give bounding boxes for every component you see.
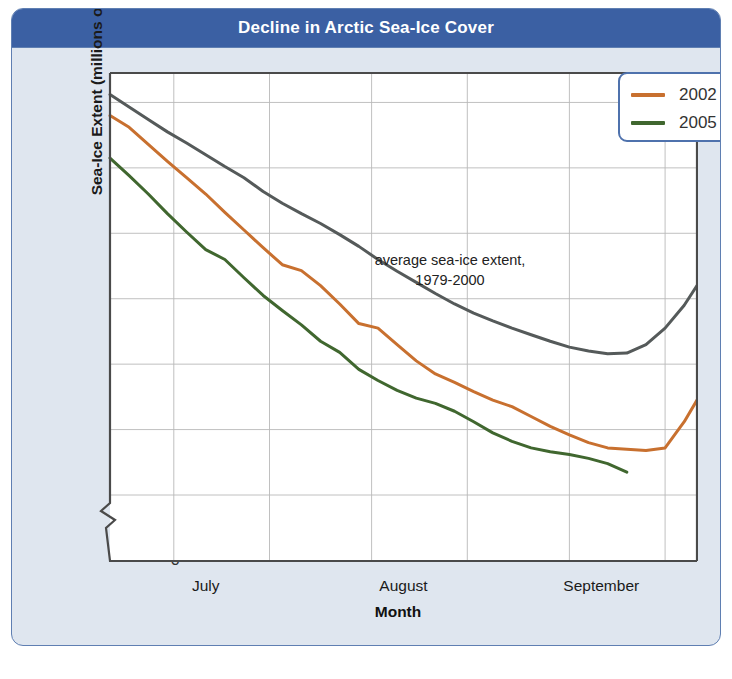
chart-title-bar: Decline in Arctic Sea-Ice Cover — [12, 9, 720, 48]
legend-item[interactable]: 2005 — [620, 109, 721, 137]
annotation-line-1: average sea-ice extent, — [350, 251, 550, 271]
plot-background — [110, 73, 697, 561]
x-tick-label: August — [379, 577, 427, 595]
plot-canvas — [98, 65, 698, 570]
chart-legend: 20022005 — [618, 72, 721, 142]
legend-item[interactable]: 2002 — [620, 81, 721, 109]
annotation-line-2: 1979-2000 — [350, 271, 550, 291]
page-title: Decline in Arctic Sea-Ice Cover — [238, 18, 494, 38]
legend-label: 2005 — [679, 113, 717, 133]
line-chart-svg — [98, 65, 698, 570]
x-tick-label: July — [192, 577, 220, 595]
legend-color-swatch — [631, 93, 665, 97]
chart-figure: Decline in Arctic Sea-Ice Cover Sea-Ice … — [11, 8, 721, 646]
x-axis-title: Month — [98, 603, 698, 621]
plot-area: Sea-Ice Extent (millions of km2) 1110987… — [98, 65, 698, 570]
x-tick-label: September — [563, 577, 639, 595]
legend-label: 2002 — [679, 85, 717, 105]
x-axis-ticks: JulyAugustSeptember — [98, 577, 698, 601]
series-annotation: average sea-ice extent, 1979-2000 — [350, 251, 550, 290]
legend-color-swatch — [631, 121, 665, 125]
